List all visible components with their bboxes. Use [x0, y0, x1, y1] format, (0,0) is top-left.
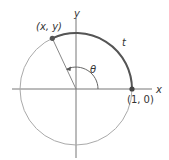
label-point-xy: (x, y)	[36, 21, 62, 32]
label-arc-t: t	[122, 37, 127, 48]
label-x-axis: x	[155, 84, 162, 95]
arc-t	[52, 33, 132, 89]
label-theta: θ	[90, 64, 96, 75]
label-y-axis: y	[73, 8, 81, 19]
label-point-1-0: (1, 0)	[127, 94, 154, 105]
unit-circle-diagram: (x, y) (1, 0) x y θ t	[0, 0, 169, 160]
point-xy	[50, 36, 55, 41]
radius-line	[52, 38, 76, 89]
point-1-0	[129, 86, 134, 91]
